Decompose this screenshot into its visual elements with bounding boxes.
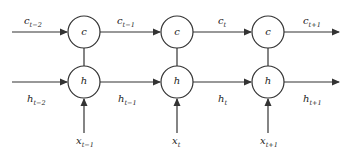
hidden-edge-label: ht+1 — [303, 94, 322, 107]
input-label: xt+1 — [260, 136, 278, 149]
cell-edge-label: ct−1 — [117, 16, 135, 29]
input-label: xt — [172, 136, 180, 149]
hidden-node-label: h — [258, 76, 278, 86]
hidden-edge-label: ht−2 — [27, 94, 46, 107]
hidden-node-label: h — [167, 76, 187, 86]
cell-edge-label: ct+1 — [303, 16, 321, 29]
hidden-edge-label: ht−1 — [118, 94, 137, 107]
cell-node-label: c — [258, 27, 278, 37]
input-label: xt−1 — [76, 136, 94, 149]
hidden-edge-label: ht — [218, 94, 227, 107]
cell-edge-label: ct−2 — [24, 16, 42, 29]
cell-node-label: c — [167, 27, 187, 37]
hidden-node-label: h — [74, 76, 94, 86]
cell-edge-label: ct — [218, 16, 226, 29]
cell-node-label: c — [74, 27, 94, 37]
